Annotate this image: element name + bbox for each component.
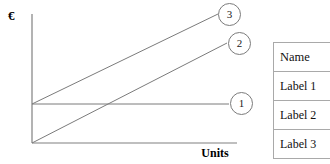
legend-table: Name Label 1 Label 2 Label 3: [273, 42, 330, 159]
legend-row-label-1: Label 1: [274, 72, 330, 101]
plot-area: € Units 3 2 1: [0, 0, 265, 164]
series-line-3: [32, 14, 218, 104]
legend-header-name: Name: [274, 43, 330, 72]
legend-row-label-3: Label 3: [274, 130, 330, 159]
table-row: Label 3: [274, 130, 330, 159]
table-row: Label 2: [274, 101, 330, 130]
x-axis-label: Units: [160, 147, 270, 159]
series-marker-2[interactable]: 2: [228, 32, 251, 55]
series-line-2: [32, 43, 227, 143]
chart-figure: € Units 3 2 1 Name Label 1 Label 2 Label…: [0, 0, 330, 164]
series-marker-1[interactable]: 1: [230, 92, 253, 115]
y-axis-label: €: [8, 9, 15, 22]
series-marker-3[interactable]: 3: [218, 3, 241, 26]
table-row: Name: [274, 43, 330, 72]
legend-row-label-2: Label 2: [274, 101, 330, 130]
table-row: Label 1: [274, 72, 330, 101]
